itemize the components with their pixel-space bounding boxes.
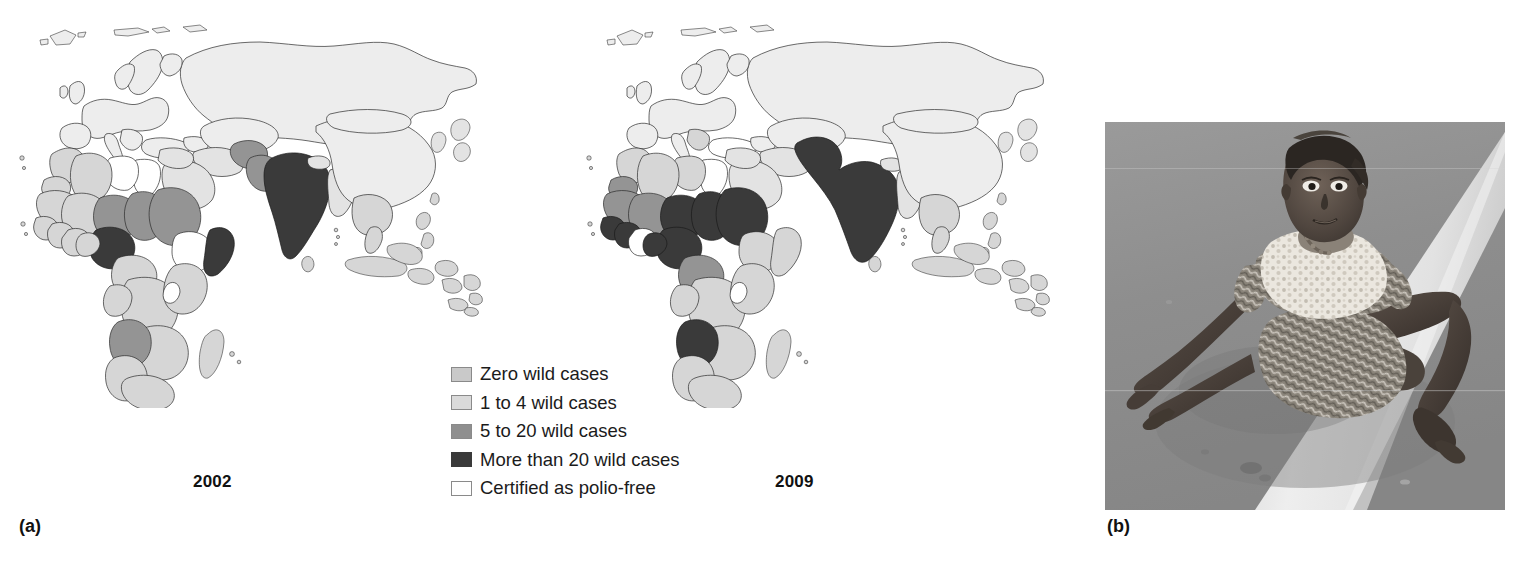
legend-item-one-to-four-wild-cases: 1 to 4 wild cases (451, 389, 711, 418)
map-legend: Zero wild cases 1 to 4 wild cases 5 to 2… (451, 360, 711, 503)
panel-letter-a: (a) (19, 516, 41, 537)
legend-label-certified-polio-free: Certified as polio-free (480, 479, 656, 498)
figure-root: .c0 { fill:#d6d6d6; stroke:#2b2b2b; stro… (0, 0, 1520, 578)
map-year-label-2009: 2009 (775, 472, 814, 492)
five-to-twenty-wild-cases-swatch (451, 424, 472, 439)
legend-item-zero-wild-cases: Zero wild cases (451, 360, 711, 389)
legend-item-certified-polio-free: Certified as polio-free (451, 474, 711, 503)
legend-label-five-to-twenty-wild-cases: 5 to 20 wild cases (480, 422, 627, 441)
zero-wild-cases-swatch (451, 367, 472, 382)
legend-label-zero-wild-cases: Zero wild cases (480, 365, 609, 384)
one-to-four-wild-cases-swatch (451, 395, 472, 410)
world-map-2009: .d0 { fill:#d6d6d6; stroke:#2b2b2b; stro… (585, 18, 1055, 408)
polio-survivor-photograph (1105, 122, 1505, 510)
legend-item-more-than-twenty-wild-cases: More than 20 wild cases (451, 446, 711, 475)
more-than-twenty-wild-cases-swatch (451, 452, 472, 467)
legend-label-more-than-twenty-wild-cases: More than 20 wild cases (480, 451, 680, 470)
legend-label-one-to-four-wild-cases: 1 to 4 wild cases (480, 394, 617, 413)
legend-item-five-to-twenty-wild-cases: 5 to 20 wild cases (451, 417, 711, 446)
panel-b-photo: Black and white photograph of a girl wit… (1105, 122, 1505, 510)
certified-polio-free-swatch (451, 481, 472, 496)
panel-letter-b: (b) (1107, 516, 1130, 537)
map-year-label-2002: 2002 (193, 472, 232, 492)
panel-a-maps: .c0 { fill:#d6d6d6; stroke:#2b2b2b; stro… (0, 0, 1090, 578)
world-map-2002: .c0 { fill:#d6d6d6; stroke:#2b2b2b; stro… (18, 18, 488, 408)
